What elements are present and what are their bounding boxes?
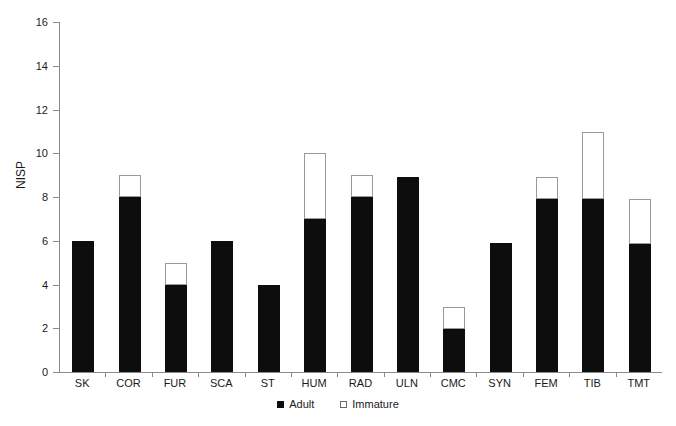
- x-axis-label-fur: FUR: [152, 378, 198, 389]
- bar-segment-adult-fem: [536, 199, 558, 372]
- x-axis-label-rad: RAD: [337, 378, 383, 389]
- x-axis-label-sca: SCA: [198, 378, 244, 389]
- x-tick-tmt: [616, 372, 617, 377]
- x-axis-label-fem: FEM: [523, 378, 569, 389]
- x-tick-st: [245, 372, 246, 377]
- y-tick-6: [53, 241, 59, 242]
- y-tick-label-2: 2: [0, 323, 48, 334]
- y-tick-label-14: 14: [0, 61, 48, 72]
- bar-segment-immature-cor: [119, 175, 141, 197]
- x-tick-uln: [384, 372, 385, 377]
- bar-tmt: [629, 199, 651, 372]
- bar-segment-adult-uln: [397, 177, 419, 372]
- bar-segment-adult-rad: [351, 197, 373, 372]
- bar-segment-adult-syn: [490, 243, 512, 372]
- chart-legend: AdultImmature: [0, 398, 676, 410]
- x-axis-label-sk: SK: [59, 378, 105, 389]
- bar-sca: [211, 241, 233, 372]
- y-tick-label-10: 10: [0, 148, 48, 159]
- bar-segment-adult-sca: [211, 241, 233, 372]
- bar-segment-adult-sk: [72, 241, 94, 372]
- x-axis-label-cmc: CMC: [430, 378, 476, 389]
- bar-segment-adult-hum: [304, 219, 326, 372]
- x-tick-fem: [523, 372, 524, 377]
- bar-segment-adult-tib: [582, 199, 604, 372]
- bar-segment-immature-tib: [582, 132, 604, 199]
- bar-segment-immature-hum: [304, 153, 326, 219]
- legend-item-adult: Adult: [277, 398, 314, 410]
- y-tick-label-8: 8: [0, 192, 48, 203]
- bar-fem: [536, 177, 558, 372]
- bar-st: [258, 285, 280, 373]
- x-tick-cor: [105, 372, 106, 377]
- bar-segment-adult-tmt: [629, 244, 651, 372]
- bar-tib: [582, 132, 604, 372]
- y-tick-2: [53, 328, 59, 329]
- y-tick-16: [53, 22, 59, 23]
- y-tick-4: [53, 285, 59, 286]
- bar-cor: [119, 175, 141, 372]
- legend-label-immature: Immature: [352, 398, 398, 410]
- bar-uln: [397, 177, 419, 372]
- bar-fur: [165, 263, 187, 372]
- x-tick-sca: [198, 372, 199, 377]
- x-tick-rad: [337, 372, 338, 377]
- bar-cmc: [443, 307, 465, 372]
- x-axis-label-tib: TIB: [569, 378, 615, 389]
- y-tick-12: [53, 110, 59, 111]
- x-tick-fur: [152, 372, 153, 377]
- y-tick-label-12: 12: [0, 105, 48, 116]
- x-axis-label-cor: COR: [105, 378, 151, 389]
- legend-label-adult: Adult: [289, 398, 314, 410]
- bar-segment-immature-tmt: [629, 199, 651, 244]
- y-tick-label-6: 6: [0, 236, 48, 247]
- y-tick-label-0: 0: [0, 367, 48, 378]
- bar-segment-immature-fem: [536, 177, 558, 199]
- y-tick-8: [53, 197, 59, 198]
- x-axis-label-tmt: TMT: [616, 378, 662, 389]
- bar-hum: [304, 153, 326, 372]
- bar-segment-immature-rad: [351, 175, 373, 197]
- bar-sk: [72, 241, 94, 372]
- bar-segment-adult-st: [258, 285, 280, 373]
- x-axis-label-uln: ULN: [384, 378, 430, 389]
- y-tick-10: [53, 153, 59, 154]
- x-tick-cmc: [430, 372, 431, 377]
- open-square-icon: [340, 401, 347, 408]
- x-axis-label-hum: HUM: [291, 378, 337, 389]
- y-tick-label-16: 16: [0, 17, 48, 28]
- legend-item-immature: Immature: [340, 398, 398, 410]
- y-tick-label-4: 4: [0, 280, 48, 291]
- bar-segment-adult-cmc: [443, 329, 465, 372]
- y-tick-0: [53, 372, 59, 373]
- x-tick-hum: [291, 372, 292, 377]
- bar-segment-adult-cor: [119, 197, 141, 372]
- y-tick-14: [53, 66, 59, 67]
- filled-square-icon: [277, 401, 284, 408]
- bar-syn: [490, 243, 512, 372]
- x-axis-line: [59, 372, 662, 373]
- bar-segment-immature-fur: [165, 263, 187, 285]
- x-tick-syn: [476, 372, 477, 377]
- x-tick-tib: [569, 372, 570, 377]
- plot-area: [60, 22, 662, 372]
- x-axis-label-st: ST: [245, 378, 291, 389]
- bar-segment-immature-cmc: [443, 307, 465, 329]
- bar-rad: [351, 175, 373, 372]
- nisp-stacked-bar-chart: NISP 0246810121416 SKCORFURSCASTHUMRADUL…: [0, 0, 676, 426]
- x-axis-label-syn: SYN: [476, 378, 522, 389]
- bar-segment-adult-fur: [165, 285, 187, 373]
